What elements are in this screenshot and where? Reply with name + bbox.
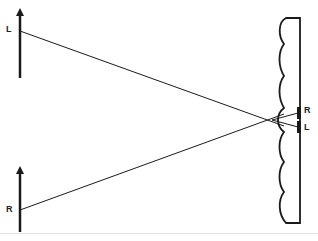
- head-profile: [278, 18, 300, 223]
- bottom-divider: [0, 233, 318, 234]
- bottom-object-label: R: [6, 205, 13, 214]
- right-object-arrow: [16, 166, 24, 232]
- ray-bottom: [20, 114, 284, 210]
- retina-bar-upper: [297, 107, 301, 119]
- stereo-diagram: [0, 0, 318, 241]
- left-object-arrow: [16, 8, 24, 78]
- ray-top: [20, 31, 284, 126]
- retina-upper-label: R: [304, 106, 311, 115]
- retina-bar-lower: [297, 121, 301, 133]
- retina-lower-label: L: [304, 123, 310, 132]
- top-object-label: L: [6, 25, 12, 34]
